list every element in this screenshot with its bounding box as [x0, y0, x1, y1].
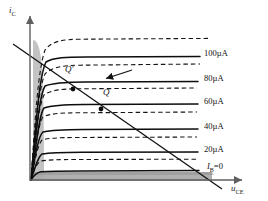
transistor-output-characteristics-figure: iC uCE 100µA 80µA 60µA 40µA 20µA IB=0 Q'…: [0, 0, 268, 201]
curve-label-ib0: IB=0: [207, 162, 223, 173]
x-axis-label: uCE: [231, 184, 244, 195]
q-dot: [99, 107, 104, 112]
dashed-curve-80: [31, 88, 197, 180]
dc-load-line: [13, 44, 222, 189]
operating-point-markers: [71, 87, 104, 112]
y-axis-label: iC: [9, 6, 16, 17]
dashed-curves-group: [31, 38, 208, 180]
q-prime-label: Q': [65, 65, 73, 74]
curve-label-40ua: 40µA: [204, 122, 224, 131]
q-prime-dot: [71, 87, 76, 92]
curve-label-100ua: 100µA: [204, 49, 228, 58]
dashed-curve-60: [31, 112, 197, 180]
dashed-curve-top: [31, 38, 208, 180]
shift-arrow: [106, 70, 132, 79]
curve-label-20ua: 20µA: [204, 145, 224, 154]
curve-label-60ua: 60µA: [204, 97, 224, 106]
curve-60uA: [31, 104, 198, 180]
q-label: Q: [103, 88, 110, 97]
curve-label-80ua: 80µA: [204, 74, 224, 83]
chart-canvas: [0, 0, 268, 201]
